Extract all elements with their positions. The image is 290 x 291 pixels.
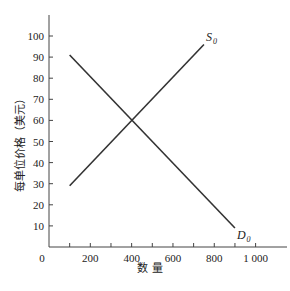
x-tick-label: 0 [39, 252, 45, 264]
x-tick-label: 800 [206, 252, 223, 264]
y-tick-label: 80 [33, 72, 45, 84]
series-group [70, 44, 235, 228]
series-line-d0 [70, 55, 235, 228]
y-tick-label: 50 [33, 136, 45, 148]
labels-group: S0D0 [206, 30, 251, 244]
series-label-subscript: 0 [213, 37, 217, 46]
y-tick-label: 30 [33, 178, 45, 190]
y-tick-label: 20 [33, 199, 45, 211]
y-axis-title: 每单位价格（美元） [13, 93, 27, 192]
series-line-s0 [70, 44, 204, 185]
y-tick-label: 90 [33, 51, 45, 63]
y-tick-label: 40 [33, 157, 45, 169]
y-tick-label: 10 [33, 220, 45, 232]
y-tick-label: 100 [28, 30, 45, 42]
series-label-s0: S0 [206, 30, 217, 46]
x-tick-label: 600 [165, 252, 182, 264]
series-label-d0: D0 [236, 228, 251, 244]
x-tick-label: 200 [82, 252, 99, 264]
supply-demand-chart: 02004006008001 000102030405060708090100 … [0, 0, 290, 291]
x-axis-title: 数 量 [137, 262, 163, 275]
series-label-subscript: 0 [247, 235, 251, 244]
axes: 02004006008001 000102030405060708090100 [28, 15, 288, 264]
y-tick-label: 60 [33, 114, 45, 126]
x-tick-label: 1 000 [243, 252, 268, 264]
y-tick-label: 70 [33, 93, 45, 105]
